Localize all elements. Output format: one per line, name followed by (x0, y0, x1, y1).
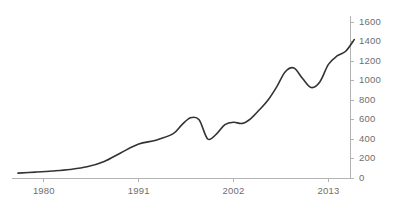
y-tick-label: 200 (359, 152, 375, 163)
series-line (18, 40, 354, 174)
y-tick-label: 800 (359, 94, 375, 105)
x-tick-label: 1980 (33, 185, 55, 196)
y-axis: 02004006008001000120014001600 (350, 16, 381, 183)
y-tick-label: 0 (359, 172, 364, 183)
x-tick-label: 1991 (128, 185, 150, 196)
y-tick-label: 1200 (359, 55, 381, 66)
y-tick-label: 400 (359, 133, 375, 144)
y-tick-label: 1600 (359, 16, 381, 27)
x-tick-label: 2013 (317, 185, 339, 196)
data-series-group (18, 40, 354, 174)
y-tick-label: 1400 (359, 35, 381, 46)
y-tick-label: 1000 (359, 74, 381, 85)
chart-container: 1980199120022013 02004006008001000120014… (0, 0, 394, 216)
x-axis: 1980199120022013 (12, 178, 350, 196)
y-tick-label: 600 (359, 113, 375, 124)
x-tick-label: 2002 (223, 185, 245, 196)
line-chart: 1980199120022013 02004006008001000120014… (0, 0, 394, 216)
